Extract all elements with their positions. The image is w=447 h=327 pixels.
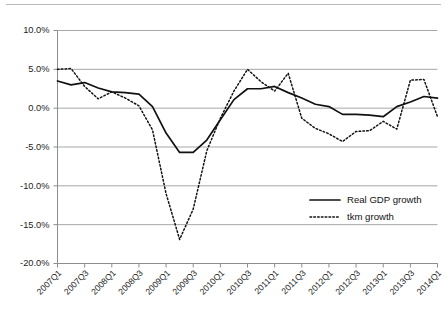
x-tick-label: 2014Q1 bbox=[415, 268, 444, 297]
y-tick-label: 10.0% bbox=[23, 25, 49, 35]
x-tick-label: 2010Q1 bbox=[198, 268, 227, 297]
x-tick-label: 2013Q1 bbox=[360, 268, 389, 297]
x-tick-label: 2007Q3 bbox=[62, 268, 91, 297]
y-tick-label: 5.0% bbox=[28, 64, 49, 74]
y-tick-label: -20.0% bbox=[20, 258, 49, 268]
y-axis-ticks-group: 10.0%5.0%0.0%-5.0%-10.0%-15.0%-20.0% bbox=[20, 25, 57, 268]
chart-figure: 10.0%5.0%0.0%-5.0%-10.0%-15.0%-20.0% 200… bbox=[0, 0, 447, 327]
x-tick-label: 2007Q1 bbox=[35, 268, 64, 297]
chart-legend: Real GDP growthtkm growth bbox=[310, 194, 421, 222]
series-line-real-gdp-growth bbox=[58, 81, 438, 152]
x-tick-label: 2008Q1 bbox=[89, 268, 118, 297]
x-tick-label: 2008Q3 bbox=[116, 268, 145, 297]
y-tick-label: -15.0% bbox=[20, 220, 49, 230]
x-tick-label: 2011Q1 bbox=[252, 268, 280, 296]
x-tick-label: 2012Q3 bbox=[333, 268, 362, 297]
y-tick-label: -10.0% bbox=[20, 181, 49, 191]
legend-label-real-gdp-growth: Real GDP growth bbox=[347, 194, 421, 205]
x-tick-label: 2011Q3 bbox=[279, 268, 307, 296]
x-tick-label: 2010Q3 bbox=[225, 268, 254, 297]
y-tick-label: 0.0% bbox=[28, 103, 49, 113]
x-tick-label: 2009Q3 bbox=[170, 268, 199, 297]
gridlines-group bbox=[58, 31, 438, 264]
x-tick-label: 2009Q1 bbox=[143, 268, 172, 297]
line-chart-plot: 10.0%5.0%0.0%-5.0%-10.0%-15.0%-20.0% 200… bbox=[0, 0, 447, 327]
x-tick-label: 2012Q1 bbox=[306, 268, 335, 297]
legend-label-tkm-growth: tkm growth bbox=[347, 211, 394, 222]
x-axis-ticks-group: 2007Q12007Q32008Q12008Q32009Q12009Q32010… bbox=[35, 264, 444, 297]
y-tick-label: -5.0% bbox=[25, 142, 49, 152]
x-tick-label: 2013Q3 bbox=[388, 268, 417, 297]
